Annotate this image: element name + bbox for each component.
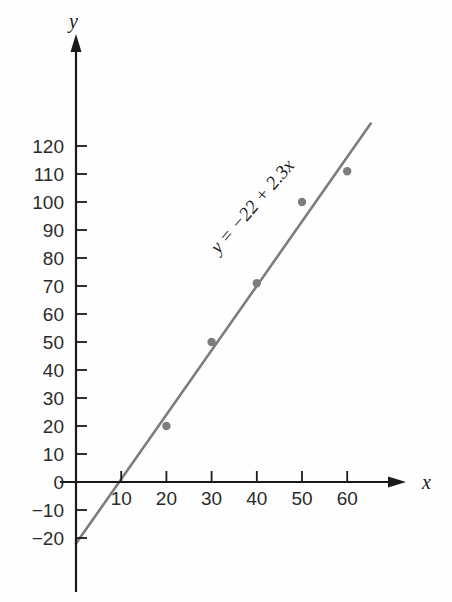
y-tick-label: 40	[43, 360, 64, 381]
y-tick-label: 30	[43, 388, 64, 409]
y-tick-label: 50	[43, 332, 64, 353]
equation-annotation: y = −22 + 2.3x	[204, 155, 298, 259]
data-point	[343, 167, 351, 175]
y-tick-label: 10	[43, 444, 64, 465]
data-point	[162, 422, 170, 430]
y-tick-label: 20	[43, 416, 64, 437]
y-tick-label: −10	[32, 500, 64, 521]
y-tick-label: 60	[43, 304, 64, 325]
y-axis: y	[67, 10, 82, 592]
y-tick-label: 80	[43, 248, 64, 269]
data-point	[298, 198, 306, 206]
y-tick-label: −20	[32, 528, 64, 549]
x-tick-label: 50	[291, 488, 312, 509]
x-tick-label: 40	[246, 488, 267, 509]
y-tick-label: 90	[43, 220, 64, 241]
y-tick-label: 0	[53, 472, 64, 493]
plot-canvas: y x −20−100102030405060708090100110120 1…	[0, 0, 452, 602]
y-tick-label: 100	[32, 192, 64, 213]
data-point	[253, 279, 261, 287]
regression-line	[76, 124, 371, 544]
y-tick-label: 70	[43, 276, 64, 297]
x-axis-label: x	[421, 471, 431, 493]
x-tick-label: 20	[156, 488, 177, 509]
y-axis-ticks: −20−100102030405060708090100110120	[32, 136, 87, 549]
y-axis-label: y	[67, 10, 78, 33]
x-axis-arrow-icon	[388, 477, 406, 488]
regression-line-path	[76, 124, 371, 544]
x-tick-label: 30	[201, 488, 222, 509]
scatter-plot-figure: y x −20−100102030405060708090100110120 1…	[0, 0, 452, 602]
equation-text: y = −22 + 2.3x	[204, 155, 298, 259]
y-tick-label: 110	[34, 164, 64, 185]
x-axis-ticks: 102030405060	[111, 471, 358, 509]
x-tick-label: 60	[337, 488, 358, 509]
y-tick-label: 120	[32, 136, 64, 157]
data-point	[207, 338, 215, 346]
x-tick-label: 10	[111, 488, 132, 509]
y-axis-arrow-icon	[71, 34, 82, 52]
